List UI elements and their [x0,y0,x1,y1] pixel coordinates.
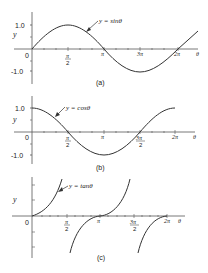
panel-b-cosine: y = cosθ y 1.0 -1.0 0 π 2 π 3π 2 2π θ (b… [11,96,196,172]
panel-a-sine: y = sinθ y 1.0 -1.0 0 π 2 π 3π 2π θ (a) [11,12,199,87]
trig-graphs: y = sinθ y 1.0 -1.0 0 π 2 π 3π 2π θ (a) [0,0,208,273]
panel-b-cosine-curve [32,108,175,155]
panel-b-tick-pi-2-den: 2 [66,142,70,148]
panel-c-curve-label: y = tanθ [68,182,93,190]
panel-b-origin: 0 [25,134,29,141]
panel-b-tick-pi: π [101,134,105,140]
panel-a-y-label: y [12,30,17,39]
panel-c-tick-pi-2-num: π [65,219,69,225]
panel-a-origin: 0 [25,52,29,59]
panel-c-tick-2pi: 2π [164,218,171,224]
panel-b-y-label: y [12,115,17,124]
panel-c-tangent: y = tanθ y 0 π 2 π 3π 2 2π θ (c) [12,177,185,262]
panel-a-tick-pi-2-den: 2 [66,60,70,66]
panel-c-tick-pi-2-den: 2 [65,226,69,232]
panel-c-origin: 0 [25,219,29,226]
panel-a-x-label: θ [196,51,199,57]
panel-b-tick-pi-2-num: π [66,135,70,141]
panel-a-tick-2pi: 2π [174,51,181,57]
panel-b-tick-3pi-2-den: 2 [139,142,143,148]
panel-c-tick-pi: π [97,218,101,224]
panel-b-y-tick-bottom: -1.0 [11,152,23,159]
panel-a-y-tick-bottom: -1.0 [11,68,23,75]
panel-c-x-label: θ [178,218,181,224]
panel-b-caption: (b) [96,164,105,172]
panel-b-curve-label: y = cosθ [65,104,91,112]
panel-b-tick-2pi: 2π [172,134,179,140]
panel-a-y-tick-top: 1.0 [15,22,25,29]
panel-a-caption: (a) [96,79,105,87]
panel-b-y-tick-top: 1.0 [15,105,25,112]
panel-b-x-label: θ [193,134,196,140]
panel-c-tangent-branch-3 [138,216,167,253]
panel-a-tick-3pi-2-num: 3π [136,51,144,57]
panel-c-tick-3pi-2-num: 3π [129,219,137,225]
panel-a-tick-pi-2-num: π [66,53,70,59]
panel-c-tangent-branch-1 [32,179,62,216]
panel-a-sine-curve [32,25,198,72]
panel-a-curve-label: y = sinθ [98,17,122,25]
panel-c-y-label: y [12,195,17,204]
panel-c-caption: (c) [97,254,105,262]
panel-a-tick-pi: π [101,51,105,57]
panel-b-tick-3pi-2-num: 3π [135,135,143,141]
panel-c-tick-3pi-2-den: 2 [133,226,137,232]
